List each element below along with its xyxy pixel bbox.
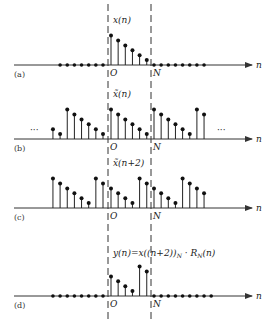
stem-marker [80, 196, 84, 200]
stem-marker [65, 108, 69, 112]
stem-marker [202, 191, 206, 195]
stem-marker [152, 186, 156, 190]
zero-sample-dot [87, 63, 91, 67]
origin-label: O [110, 68, 118, 78]
stem-marker [58, 182, 62, 186]
zero-sample-dot [159, 294, 163, 298]
stem-marker [130, 48, 134, 52]
periodic-shift-diagram: n(a)ONx(n)n(b)ON······x̃(n)n(c)ONx̃(n+2)… [0, 0, 270, 324]
axis-label-n: n [256, 134, 262, 144]
stem-marker [138, 177, 142, 181]
zero-sample-dot [181, 63, 185, 67]
stem-marker [101, 132, 105, 136]
stem-marker [116, 39, 120, 43]
zero-sample-dot [94, 294, 98, 298]
zero-sample-dot [101, 294, 105, 298]
stem-marker [159, 191, 163, 195]
zero-sample-dot [73, 63, 77, 67]
stem-marker [130, 201, 134, 205]
stem-marker [72, 191, 76, 195]
stem-marker [109, 108, 113, 112]
stem-marker [130, 122, 134, 126]
stem-marker [109, 274, 113, 278]
zero-sample-dot [101, 63, 105, 67]
zero-sample-dot [195, 294, 199, 298]
zero-sample-dot [209, 294, 213, 298]
stem-marker [116, 279, 120, 283]
stem-marker [145, 270, 149, 274]
period-label: N [152, 68, 162, 78]
zero-sample-dot [58, 63, 62, 67]
zero-sample-dot [87, 294, 91, 298]
zero-sample-dot [202, 63, 206, 67]
stem-marker [101, 182, 105, 186]
signal-label-a: x(n) [113, 15, 131, 25]
stem-marker [173, 201, 177, 205]
stem-marker [116, 191, 120, 195]
zero-sample-dot [80, 63, 84, 67]
stem-marker [181, 127, 185, 131]
stem-marker [80, 117, 84, 121]
zero-sample-dot [65, 294, 69, 298]
stem-marker [181, 177, 185, 181]
zero-sample-dot [188, 294, 192, 298]
stem-marker [188, 132, 192, 136]
stem-marker [123, 196, 127, 200]
ellipsis-right: ··· [217, 125, 226, 135]
stem-marker [94, 177, 98, 181]
stem-marker [145, 132, 149, 136]
signal-label-b: x̃(n) [113, 89, 131, 99]
stem-marker [116, 113, 120, 117]
zero-sample-dot [152, 294, 156, 298]
stem-marker [195, 186, 199, 190]
zero-sample-dot [195, 63, 199, 67]
zero-sample-dot [73, 294, 77, 298]
zero-sample-dot [174, 63, 178, 67]
stem-marker [51, 177, 55, 181]
stem-marker [123, 117, 127, 121]
zero-sample-dot [188, 63, 192, 67]
stem-marker [58, 132, 62, 136]
panel-tag-b: (b) [14, 144, 25, 153]
stem-marker [130, 289, 134, 293]
stem-marker [138, 53, 142, 57]
origin-label: O [110, 211, 118, 221]
axis-label-n: n [256, 203, 262, 213]
period-label: N [152, 211, 162, 221]
signal-label-c: x̃(n+2) [113, 158, 145, 168]
axis-label-n: n [256, 60, 262, 70]
stem-marker [72, 113, 76, 117]
stem-marker [123, 43, 127, 47]
stem-marker [138, 127, 142, 131]
zero-sample-dot [58, 294, 62, 298]
ellipsis-left: ··· [30, 125, 39, 135]
stem-marker [173, 122, 177, 126]
panel-tag-d: (d) [14, 301, 25, 310]
zero-sample-dot [94, 63, 98, 67]
period-label: N [152, 142, 162, 152]
stem-marker [145, 58, 149, 62]
zero-sample-dot [167, 63, 171, 67]
period-label: N [152, 299, 162, 309]
signal-label-d: y(n)=x((n+2))N · RN(n) [112, 248, 216, 259]
stem-marker [166, 117, 170, 121]
stem-marker [159, 113, 163, 117]
zero-sample-dot [152, 63, 156, 67]
stem-marker [138, 265, 142, 269]
stem-marker [109, 186, 113, 190]
stem-marker [123, 284, 127, 288]
stem-marker [51, 127, 55, 131]
zero-sample-dot [51, 294, 55, 298]
stem-marker [166, 196, 170, 200]
stem-marker [109, 34, 113, 38]
zero-sample-dot [159, 63, 163, 67]
stem-marker [87, 201, 91, 205]
zero-sample-dot [202, 294, 206, 298]
panel-tag-c: (c) [14, 213, 25, 222]
stem-marker [202, 113, 206, 117]
stem-marker [152, 108, 156, 112]
zero-sample-dot [174, 294, 178, 298]
stem-marker [195, 108, 199, 112]
zero-sample-dot [167, 294, 171, 298]
zero-sample-dot [181, 294, 185, 298]
